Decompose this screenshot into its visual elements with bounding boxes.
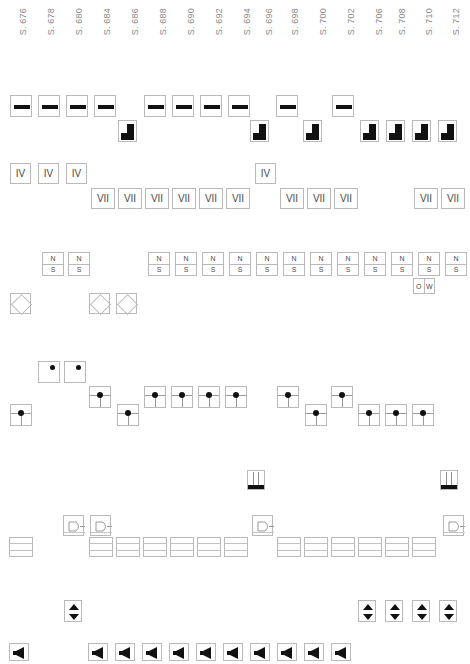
symbol-dash-0-6[interactable] [200,95,222,117]
symbol-numeral-vii-3-10[interactable]: VII [441,188,465,209]
symbol-up-down-arrows-13-4[interactable] [439,600,457,622]
symbol-numeral-iv-2-0[interactable]: IV [10,163,31,184]
symbol-numeral-vii-3-7[interactable]: VII [307,188,331,209]
symbol-up-down-arrows-13-0[interactable] [64,600,82,622]
symbol-step-1-0[interactable] [118,120,137,142]
symbol-o-w-5-0[interactable]: OW [413,278,435,294]
symbol-speaker-14-8[interactable] [277,643,297,661]
symbol-stacked-block-12-8[interactable] [304,537,328,557]
symbol-dot-center-8-3[interactable] [198,386,220,408]
symbol-stacked-block-12-9[interactable] [331,537,355,557]
symbol-speaker-14-10[interactable] [331,643,351,661]
symbol-diamond-in-square-6-2[interactable] [116,293,137,314]
symbol-stacked-block-12-7[interactable] [277,537,301,557]
symbol-step-1-4[interactable] [386,120,405,142]
symbol-speaker-14-9[interactable] [304,643,324,661]
symbol-numeral-vii-3-2[interactable]: VII [145,188,169,209]
symbol-diamond-in-square-6-1[interactable] [89,293,110,314]
symbol-numeral-vii-3-6[interactable]: VII [280,188,304,209]
symbol-step-1-1[interactable] [250,120,269,142]
symbol-dash-0-9[interactable] [332,95,354,117]
symbol-dot-center-9-5[interactable] [412,404,434,426]
symbol-dash-0-5[interactable] [172,95,194,117]
symbol-north-south-4-5[interactable]: NS [229,252,251,276]
symbol-dot-center-8-1[interactable] [144,386,166,408]
symbol-north-south-4-3[interactable]: NS [175,252,197,276]
symbol-numeral-vii-3-0[interactable]: VII [91,188,115,209]
symbol-stacked-block-12-5[interactable] [197,537,221,557]
symbol-dot-center-8-2[interactable] [171,386,193,408]
symbol-up-down-arrows-13-3[interactable] [412,600,430,622]
symbol-dot-center-8-5[interactable] [277,386,299,408]
symbol-north-south-4-2[interactable]: NS [148,252,170,276]
symbol-north-south-4-9[interactable]: NS [337,252,359,276]
symbol-speaker-14-3[interactable] [142,643,162,661]
symbol-dot-center-9-4[interactable] [385,404,407,426]
symbol-north-south-4-4[interactable]: NS [202,252,224,276]
symbol-speaker-14-5[interactable] [196,643,216,661]
symbol-dash-0-4[interactable] [144,95,166,117]
symbol-north-south-4-13[interactable]: NS [445,252,467,276]
symbol-logic-gate-11-1[interactable] [90,515,111,536]
symbol-stacked-block-12-6[interactable] [224,537,248,557]
symbol-dot-center-9-2[interactable] [305,404,327,426]
symbol-numeral-vii-3-4[interactable]: VII [199,188,223,209]
symbol-dot-center-9-0[interactable] [10,404,32,426]
symbol-dot-corner-7-1[interactable] [64,361,86,383]
symbol-numeral-vii-3-5[interactable]: VII [226,188,250,209]
symbol-dot-center-8-6[interactable] [331,386,353,408]
symbol-north-south-4-10[interactable]: NS [364,252,386,276]
symbol-dash-0-0[interactable] [10,95,32,117]
symbol-stacked-block-12-0[interactable] [9,537,33,557]
symbol-dash-0-1[interactable] [38,95,60,117]
symbol-up-down-arrows-13-2[interactable] [385,600,403,622]
symbol-north-south-4-11[interactable]: NS [391,252,413,276]
symbol-north-south-4-7[interactable]: NS [283,252,305,276]
symbol-stacked-block-12-12[interactable] [412,537,436,557]
symbol-step-1-3[interactable] [360,120,379,142]
symbol-north-south-4-6[interactable]: NS [256,252,278,276]
symbol-speaker-14-0[interactable] [9,643,29,661]
symbol-step-1-6[interactable] [438,120,457,142]
symbol-north-south-4-8[interactable]: NS [310,252,332,276]
symbol-striped-block-10-0[interactable] [247,470,265,490]
symbol-north-south-4-12[interactable]: NS [418,252,440,276]
symbol-dot-center-8-4[interactable] [225,386,247,408]
symbol-numeral-iv-2-3[interactable]: IV [255,163,276,184]
symbol-speaker-14-4[interactable] [169,643,189,661]
symbol-striped-block-10-1[interactable] [440,470,458,490]
symbol-logic-gate-11-0[interactable] [63,515,84,536]
symbol-dash-0-8[interactable] [276,95,298,117]
symbol-stacked-block-12-10[interactable] [358,537,382,557]
symbol-logic-gate-11-2[interactable] [252,515,273,536]
symbol-diamond-in-square-6-0[interactable] [10,293,31,314]
symbol-dot-center-9-3[interactable] [358,404,380,426]
symbol-numeral-vii-3-8[interactable]: VII [334,188,358,209]
symbol-dash-0-2[interactable] [66,95,88,117]
symbol-dot-corner-7-0[interactable] [38,361,60,383]
symbol-dot-center-8-0[interactable] [89,386,111,408]
symbol-speaker-14-1[interactable] [88,643,108,661]
symbol-north-south-4-0[interactable]: NS [42,252,64,276]
symbol-step-1-5[interactable] [412,120,431,142]
symbol-numeral-vii-3-3[interactable]: VII [172,188,196,209]
symbol-numeral-iv-2-2[interactable]: IV [66,163,87,184]
symbol-up-down-arrows-13-1[interactable] [358,600,376,622]
symbol-stacked-block-12-4[interactable] [170,537,194,557]
symbol-speaker-14-2[interactable] [115,643,135,661]
symbol-speaker-14-7[interactable] [250,643,270,661]
symbol-step-1-2[interactable] [303,120,322,142]
symbol-north-south-4-1[interactable]: NS [68,252,90,276]
symbol-stacked-block-12-3[interactable] [143,537,167,557]
symbol-stacked-block-12-1[interactable] [89,537,113,557]
symbol-numeral-iv-2-1[interactable]: IV [38,163,59,184]
symbol-numeral-vii-3-1[interactable]: VII [118,188,142,209]
symbol-speaker-14-6[interactable] [223,643,243,661]
symbol-logic-gate-11-3[interactable] [443,515,464,536]
symbol-stacked-block-12-2[interactable] [116,537,140,557]
symbol-dot-center-9-1[interactable] [117,404,139,426]
symbol-stacked-block-12-11[interactable] [385,537,409,557]
symbol-dash-0-3[interactable] [94,95,116,117]
symbol-numeral-vii-3-9[interactable]: VII [414,188,438,209]
symbol-dash-0-7[interactable] [228,95,250,117]
